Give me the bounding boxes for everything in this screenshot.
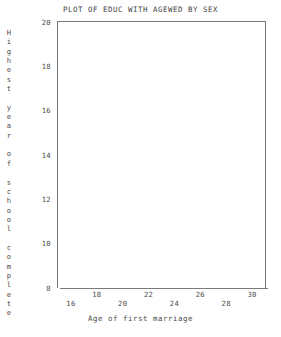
x-axis-tick-label: 16 bbox=[66, 299, 75, 308]
x-axis-tick-labels: 1618202224262830 bbox=[0, 0, 281, 337]
x-axis-tick-label: 24 bbox=[170, 299, 179, 308]
x-axis-tick-label: 18 bbox=[92, 290, 101, 299]
x-axis-tick-label: 28 bbox=[222, 299, 231, 308]
x-axis-tick-label: 20 bbox=[118, 299, 127, 308]
x-axis-tick-label: 22 bbox=[144, 290, 153, 299]
x-axis-title: Age of first marriage bbox=[0, 314, 281, 323]
chart-figure: PLOT OF EDUC WITH AGEWED BY SEX 20181614… bbox=[0, 0, 281, 337]
x-axis-tick-label: 30 bbox=[247, 290, 256, 299]
x-axis-tick-label: 26 bbox=[196, 290, 205, 299]
